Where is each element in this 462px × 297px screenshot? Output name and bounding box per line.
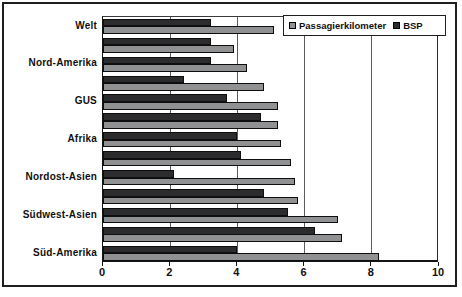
bar-passagierkilometer-slot2	[103, 45, 234, 53]
category-label-nordost-asien: Nordost-Asien	[0, 171, 97, 183]
bar-bsp-slot2	[103, 38, 211, 46]
bar-bsp-slot10	[103, 189, 264, 197]
gridline-8	[371, 17, 372, 260]
chart-figure: WeltNord-AmerikaGUSAfrikaNordost-AsienSü…	[0, 0, 462, 297]
bar-bsp-Nordost-Asien	[103, 170, 174, 178]
x-axis-label-2: 2	[166, 266, 172, 278]
category-label-südwest-asien: Südwest-Asien	[0, 209, 97, 221]
bar-passagierkilometer-Welt	[103, 26, 274, 34]
bar-bsp-slot6	[103, 113, 261, 121]
legend-swatch-passagierkilometer	[289, 22, 296, 29]
bar-bsp-slot8	[103, 151, 241, 159]
bar-bsp-Nord-Amerika	[103, 57, 211, 65]
x-axis-tick-10	[438, 262, 439, 266]
bar-bsp-slot12	[103, 227, 315, 235]
bar-passagierkilometer-Süd-Amerika	[103, 253, 379, 261]
bar-passagierkilometer-GUS	[103, 102, 278, 110]
category-label-süd-amerika: Süd-Amerika	[0, 247, 97, 259]
x-axis-label-0: 0	[99, 266, 105, 278]
bar-bsp-slot4	[103, 76, 184, 84]
x-axis-tick-6	[303, 262, 304, 266]
legend: Passagierkilometer BSP	[283, 15, 446, 36]
x-axis-tick-4	[236, 262, 237, 266]
x-axis-label-8: 8	[368, 266, 374, 278]
bar-passagierkilometer-Afrika	[103, 140, 281, 148]
x-axis-tick-0	[102, 262, 103, 266]
x-axis-label-4: 4	[233, 266, 239, 278]
bar-passagierkilometer-slot12	[103, 234, 342, 242]
bar-passagierkilometer-slot8	[103, 159, 291, 167]
bar-passagierkilometer-slot10	[103, 197, 298, 205]
x-axis-label-10: 10	[432, 266, 444, 278]
bar-bsp-Süd-Amerika	[103, 246, 237, 254]
category-label-afrika: Afrika	[0, 133, 97, 145]
bar-bsp-Welt	[103, 19, 211, 27]
bar-passagierkilometer-slot4	[103, 83, 264, 91]
bar-bsp-Afrika	[103, 132, 237, 140]
bar-bsp-GUS	[103, 94, 227, 102]
bar-passagierkilometer-Nordost-Asien	[103, 178, 295, 186]
gridline-6	[304, 17, 305, 260]
bar-passagierkilometer-Südwest-Asien	[103, 216, 338, 224]
legend-label-bsp: BSP	[403, 20, 423, 31]
bar-passagierkilometer-Nord-Amerika	[103, 64, 247, 72]
category-label-gus: GUS	[0, 95, 97, 107]
x-axis-label-6: 6	[301, 266, 307, 278]
x-axis-tick-2	[169, 262, 170, 266]
category-label-nord-amerika: Nord-Amerika	[0, 57, 97, 69]
legend-label-passagierkilometer: Passagierkilometer	[299, 20, 386, 31]
bar-passagierkilometer-slot6	[103, 121, 278, 129]
plot-area	[102, 16, 438, 262]
x-axis-tick-8	[370, 262, 371, 266]
category-label-welt: Welt	[0, 20, 97, 32]
legend-swatch-bsp	[393, 22, 400, 29]
bar-bsp-Südwest-Asien	[103, 208, 288, 216]
